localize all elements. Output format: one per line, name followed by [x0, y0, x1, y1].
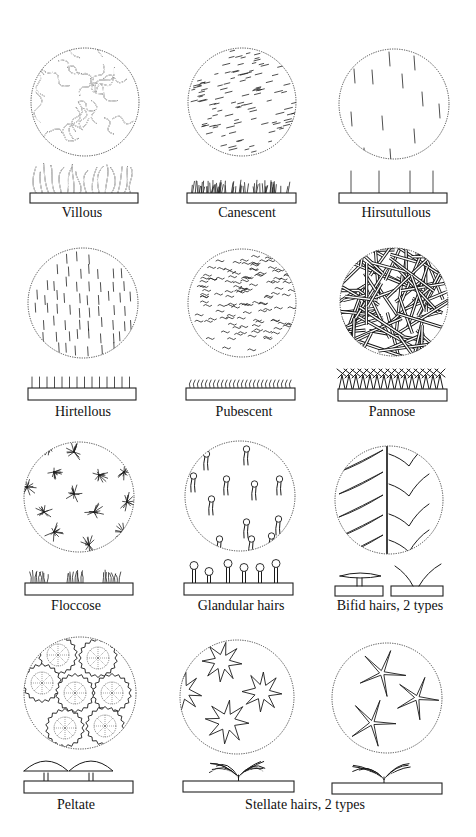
panel-canescent: [187, 48, 298, 203]
epidermis-base: [24, 781, 133, 793]
label-bifid-hairs: Bifid hairs, 2 types: [337, 599, 444, 613]
side-profile: [351, 171, 433, 193]
label-floccose: Floccose: [51, 599, 101, 613]
side-profile: [192, 180, 290, 193]
epidermis-base: [28, 388, 136, 400]
epidermis-base: [186, 388, 295, 400]
panel-hirtellous: [28, 248, 138, 400]
side-profile: [32, 377, 130, 388]
lens-outline: [28, 248, 138, 358]
magnified-surface: [19, 29, 133, 141]
epidermis-base: [183, 781, 294, 792]
epidermis-base: [187, 193, 296, 203]
label-hirtellous: Hirtellous: [55, 405, 111, 419]
label-peltate: Peltate: [57, 798, 95, 812]
magnified-surface: [35, 252, 131, 356]
label-villous: Villous: [62, 206, 102, 220]
label-hirsutullous: Hirsutullous: [361, 206, 430, 220]
label-pubescent: Pubescent: [216, 405, 273, 419]
magnified-surface: [191, 50, 298, 152]
label-stellate-hairs: Stellate hairs, 2 types: [245, 798, 365, 812]
magnified-surface: [17, 441, 136, 553]
panel-peltate: [23, 636, 136, 794]
magnified-surface: [352, 651, 439, 747]
label-glandular-hairs: Glandular hairs: [198, 599, 285, 613]
side-profile: [24, 761, 113, 781]
magnified-surface: [339, 444, 429, 557]
lens-outline: [335, 446, 443, 554]
epidermis-base: [339, 193, 447, 203]
magnified-surface: [320, 227, 466, 384]
panel-stellate-2: [332, 643, 442, 794]
side-profile: [33, 164, 133, 193]
side-profile: [30, 570, 121, 583]
panel-pubescent: [186, 249, 296, 400]
panel-floccose: [17, 441, 136, 595]
panel-stellate-1: [162, 640, 294, 792]
panel-hirsutullous: [339, 49, 449, 203]
panel-villous: [19, 29, 139, 203]
side-profile: [209, 761, 264, 781]
panel-bifid: [335, 444, 443, 596]
label-pannose: Pannose: [369, 405, 416, 419]
side-profile: [335, 564, 443, 596]
panel-glandular: [184, 441, 295, 595]
side-profile: [337, 369, 445, 389]
epidermis-base: [184, 583, 293, 595]
epidermis-base: [338, 389, 447, 401]
lens-outline: [185, 441, 295, 551]
label-canescent: Canescent: [218, 206, 276, 220]
epidermis-base: [25, 583, 133, 595]
trichome-figure: Villous Canescent Hirsutullous Hirtellou…: [0, 0, 476, 837]
lens-outline: [339, 49, 449, 159]
magnified-surface: [23, 636, 131, 748]
side-profile: [353, 764, 410, 783]
panel-pannose: [320, 227, 466, 401]
magnified-surface: [351, 52, 440, 163]
epidermis-base: [30, 193, 138, 203]
magnified-surface: [195, 255, 296, 350]
epidermis-base: [332, 783, 442, 794]
magnified-surface: [190, 446, 282, 555]
side-profile: [189, 380, 291, 388]
side-profile: [190, 560, 280, 584]
